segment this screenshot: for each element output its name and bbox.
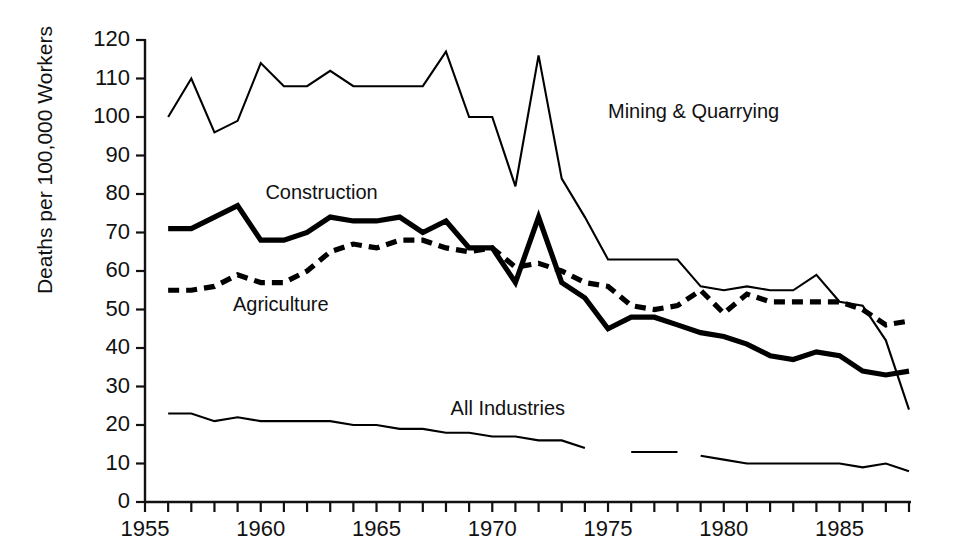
series-annotation-all-industries: All Industries	[451, 397, 566, 420]
y-axis-tick-label: 50	[60, 296, 130, 322]
y-axis-tick-label: 120	[60, 26, 130, 52]
series-line-construction	[168, 206, 909, 375]
y-axis-tick-label: 70	[60, 219, 130, 245]
x-axis-tick-label: 1965	[332, 516, 422, 542]
x-axis-tick-label: 1970	[447, 516, 537, 542]
series-annotation-construction: Construction	[265, 181, 377, 204]
y-axis-tick-label: 110	[60, 65, 130, 91]
series-line-all-industries	[701, 456, 909, 471]
series-annotation-agriculture: Agriculture	[233, 293, 329, 316]
x-axis-tick-label: 1975	[563, 516, 653, 542]
y-axis-tick-label: 0	[60, 488, 130, 514]
chart-plot-area	[0, 0, 961, 554]
y-axis-tick-label: 90	[60, 142, 130, 168]
series-annotation-mining-quarrying: Mining & Quarrying	[608, 100, 779, 123]
y-axis-tick-label: 40	[60, 334, 130, 360]
y-axis-tick-label: 80	[60, 180, 130, 206]
y-axis-tick-label: 10	[60, 450, 130, 476]
y-axis-tick-label: 20	[60, 411, 130, 437]
chart-figure: Deaths per 100,000 Workers 0102030405060…	[0, 0, 961, 554]
y-axis-tick-label: 30	[60, 373, 130, 399]
x-axis-tick-label: 1960	[216, 516, 306, 542]
x-axis-tick-label: 1955	[100, 516, 190, 542]
x-axis-tick-label: 1985	[795, 516, 885, 542]
y-axis-tick-label: 60	[60, 257, 130, 283]
x-axis-tick-label: 1980	[679, 516, 769, 542]
y-axis-tick-label: 100	[60, 103, 130, 129]
